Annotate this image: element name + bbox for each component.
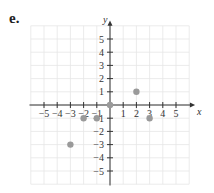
x-tick-label: 2 bbox=[134, 108, 139, 119]
y-tick-label: −4 bbox=[93, 152, 104, 163]
x-tick-label: −4 bbox=[52, 108, 63, 119]
x-tick-label: 4 bbox=[160, 108, 165, 119]
data-point bbox=[146, 115, 152, 121]
x-axis-arrow-icon bbox=[190, 103, 195, 108]
y-axis-arrow-icon bbox=[108, 21, 113, 26]
data-point bbox=[94, 115, 100, 121]
data-point bbox=[107, 102, 113, 108]
y-axis-label: y bbox=[102, 14, 108, 25]
coordinate-plane: −5−4−3−2−11234554321−1−2−3−4−5xy bbox=[0, 0, 214, 193]
y-tick-label: −5 bbox=[93, 166, 104, 177]
x-tick-label: −3 bbox=[65, 108, 76, 119]
y-tick-label: 4 bbox=[99, 47, 104, 58]
y-tick-label: 3 bbox=[99, 60, 104, 71]
x-tick-label: 5 bbox=[174, 108, 179, 119]
y-tick-label: 5 bbox=[99, 34, 104, 45]
data-point bbox=[80, 115, 86, 121]
y-tick-label: −2 bbox=[93, 126, 104, 137]
x-tick-label: −5 bbox=[39, 108, 50, 119]
y-tick-label: 2 bbox=[99, 73, 104, 84]
x-axis-label: x bbox=[196, 106, 202, 117]
data-point bbox=[67, 141, 73, 147]
y-tick-label: −3 bbox=[93, 139, 104, 150]
x-tick-label: 1 bbox=[121, 108, 126, 119]
data-point bbox=[133, 89, 139, 95]
y-tick-label: 1 bbox=[99, 86, 104, 97]
